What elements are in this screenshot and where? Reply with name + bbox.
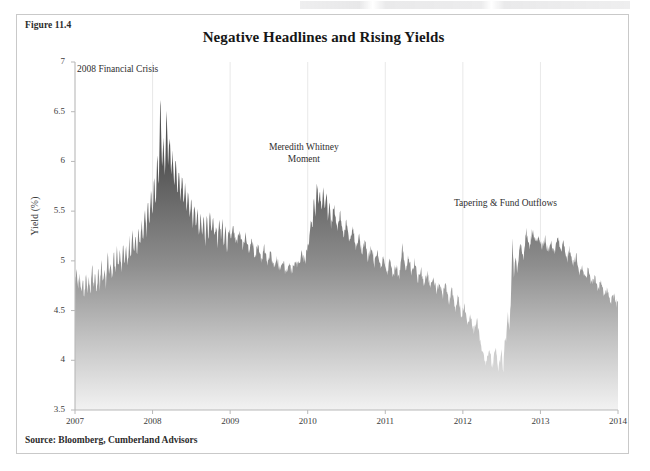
- yield-area-chart: [17, 15, 630, 455]
- plot-area: Yield (%) 3.544.555.566.5720072008200920…: [17, 15, 630, 455]
- x-axis-tick-label: 2012: [443, 416, 483, 426]
- x-axis-tick-label: 2009: [210, 416, 250, 426]
- chart-annotation-meredith-whitney: Meredith Whitney Moment: [229, 141, 379, 165]
- chart-annotation-tapering: Tapering & Fund Outflows: [431, 197, 581, 209]
- source-attribution: Source: Bloomberg, Cumberland Advisors: [25, 435, 197, 445]
- y-axis-tick-label: 6: [37, 155, 65, 165]
- x-axis-tick-label: 2010: [288, 416, 328, 426]
- y-axis-tick-label: 3.5: [37, 404, 65, 414]
- x-axis-tick-label: 2011: [365, 416, 405, 426]
- y-axis-tick-label: 4.5: [37, 305, 65, 315]
- y-axis-tick-label: 4: [37, 354, 65, 364]
- y-axis-tick-label: 6.5: [37, 106, 65, 116]
- chart-annotation-crisis-2008: 2008 Financial Crisis: [43, 63, 193, 75]
- x-axis-tick-label: 2013: [520, 416, 560, 426]
- figure-container: Figure 11.4 Negative Headlines and Risin…: [16, 14, 629, 454]
- y-axis-tick-label: 5: [37, 255, 65, 265]
- x-axis-tick-label: 2007: [55, 416, 95, 426]
- x-axis-tick-label: 2008: [133, 416, 173, 426]
- x-axis-tick-label: 2014: [598, 416, 638, 426]
- y-axis-tick-label: 5.5: [37, 205, 65, 215]
- page-bleed-text: [300, 1, 630, 9]
